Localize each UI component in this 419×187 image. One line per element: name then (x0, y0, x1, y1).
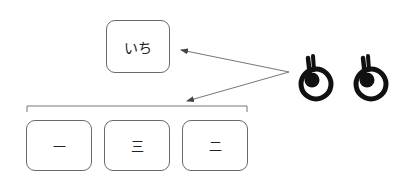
bottom-box-label: 一 (53, 136, 66, 155)
arrow-to-bottom-group (187, 72, 289, 101)
bottom-box-label: 三 (131, 136, 144, 155)
ring-with-stem-icon (356, 56, 386, 99)
bottom-box-1: 一 (26, 120, 92, 171)
arrow-to-top-box (181, 50, 289, 72)
top-box-label: いち (124, 37, 152, 57)
bottom-box-label: 二 (209, 136, 222, 155)
bottom-box-3: 二 (182, 120, 248, 171)
ring-with-stem-icon (301, 56, 331, 99)
group-bracket (27, 106, 247, 112)
bottom-box-2: 三 (104, 120, 170, 171)
top-box: いち (106, 20, 170, 73)
